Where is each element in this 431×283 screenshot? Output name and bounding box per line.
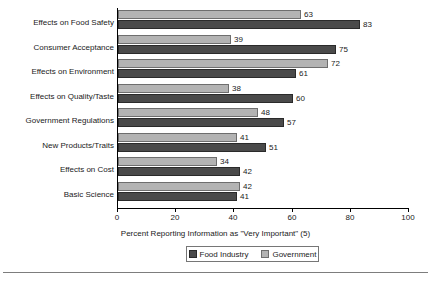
bar-government <box>118 157 217 166</box>
bar-value-government: 48 <box>261 108 270 117</box>
bar-value-government: 34 <box>220 157 229 166</box>
bar-value-government: 41 <box>240 133 249 142</box>
legend-label-food-industry: Food Industry <box>200 250 249 259</box>
bar-value-government: 42 <box>243 182 252 191</box>
x-tick-mark <box>233 208 234 212</box>
bar-value-food-industry: 57 <box>287 118 296 127</box>
x-axis-line <box>117 208 409 209</box>
x-tick-mark <box>292 208 293 212</box>
bar-government <box>118 108 258 117</box>
category-label: Effects on Food Safety <box>0 18 114 28</box>
bottom-divider <box>3 272 428 273</box>
bar-value-food-industry: 60 <box>296 94 305 103</box>
x-tick-label: 20 <box>155 213 195 223</box>
bar-food-industry <box>118 118 284 127</box>
x-tick-label: 80 <box>330 213 370 223</box>
bar-food-industry <box>118 69 296 78</box>
bar-value-food-industry: 42 <box>243 167 252 176</box>
x-tick-label: 60 <box>272 213 312 223</box>
legend-label-government: Government <box>272 250 316 259</box>
bar-value-government: 39 <box>234 35 243 44</box>
bar-food-industry <box>118 192 237 201</box>
bar-food-industry <box>118 167 240 176</box>
bar-food-industry <box>118 20 360 29</box>
x-tick-mark <box>175 208 176 212</box>
category-label: Government Regulations <box>0 116 114 126</box>
chart-legend: Food Industry Government <box>186 246 319 262</box>
bar-food-industry <box>118 143 266 152</box>
bar-food-industry <box>118 94 293 103</box>
category-label: Basic Science <box>0 190 114 200</box>
category-label: Effects on Quality/Taste <box>0 92 114 102</box>
bar-government <box>118 133 237 142</box>
category-label: Effects on Environment <box>0 67 114 77</box>
category-label: Consumer Acceptance <box>0 43 114 53</box>
bar-government <box>118 35 231 44</box>
x-axis-title: Percent Reporting Information as "Very I… <box>0 229 431 239</box>
legend-item-government: Government <box>261 250 316 259</box>
bar-value-food-industry: 75 <box>339 45 348 54</box>
bar-value-government: 38 <box>232 84 241 93</box>
bar-chart-figure: Effects on Food Safety6383Consumer Accep… <box>0 0 431 283</box>
bar-government <box>118 10 301 19</box>
x-tick-mark <box>408 208 409 212</box>
bar-government <box>118 182 240 191</box>
category-label: New Products/Traits <box>0 141 114 151</box>
bar-value-food-industry: 41 <box>240 192 249 201</box>
x-tick-label: 40 <box>213 213 253 223</box>
bar-government <box>118 59 328 68</box>
x-tick-mark <box>117 208 118 212</box>
legend-item-food-industry: Food Industry <box>189 250 249 259</box>
bar-value-government: 63 <box>304 10 313 19</box>
legend-swatch-icon-government <box>261 250 269 258</box>
x-tick-label: 0 <box>97 213 137 223</box>
bar-value-government: 72 <box>331 59 340 68</box>
legend-swatch-icon-food-industry <box>189 250 197 258</box>
bar-value-food-industry: 61 <box>299 69 308 78</box>
x-tick-label: 100 <box>388 213 428 223</box>
bar-value-food-industry: 83 <box>363 20 372 29</box>
bar-value-food-industry: 51 <box>269 143 278 152</box>
x-tick-mark <box>350 208 351 212</box>
bar-food-industry <box>118 45 336 54</box>
category-label: Effects on Cost <box>0 165 114 175</box>
bar-government <box>118 84 229 93</box>
